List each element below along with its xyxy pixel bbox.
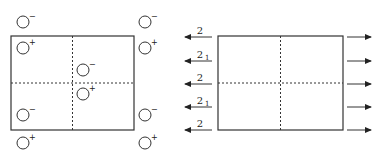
circle-icon bbox=[17, 137, 29, 149]
inflow-arrow: 2 bbox=[185, 72, 212, 84]
diagram-canvas: −−++−+−−++ 2212212 bbox=[0, 0, 381, 164]
arrow-label-subscript: 1 bbox=[205, 54, 209, 62]
circle-icon bbox=[139, 109, 151, 121]
negative-charge: − bbox=[139, 105, 158, 121]
positive-charge: + bbox=[77, 84, 96, 100]
charge-sign: − bbox=[29, 105, 36, 114]
positive-charge: + bbox=[17, 133, 36, 149]
inflow-arrow: 21 bbox=[185, 95, 212, 108]
arrow-label: 2 bbox=[197, 118, 203, 129]
charge-sign: + bbox=[151, 38, 158, 47]
charge-sign: − bbox=[89, 60, 96, 69]
circle-icon bbox=[77, 88, 89, 100]
circle-icon bbox=[139, 137, 151, 149]
charge-sign: − bbox=[151, 105, 158, 114]
circle-icon bbox=[17, 109, 29, 121]
charge-sign: + bbox=[89, 84, 96, 93]
negative-charge: − bbox=[17, 105, 36, 121]
negative-charge: − bbox=[77, 60, 96, 76]
domain-box bbox=[218, 36, 343, 130]
circle-icon bbox=[17, 42, 29, 54]
arrow-label: 2 bbox=[197, 72, 203, 83]
arrow-label-subscript: 1 bbox=[205, 100, 209, 108]
left-panel: −−++−+−−++ bbox=[11, 12, 158, 149]
circle-icon bbox=[17, 16, 29, 28]
inflow-arrow: 2 bbox=[185, 25, 212, 37]
inflow-arrow: 2 bbox=[185, 118, 212, 130]
circle-icon bbox=[139, 42, 151, 54]
negative-charge: − bbox=[17, 12, 36, 28]
charge-sign: − bbox=[29, 12, 36, 21]
arrow-label: 2 bbox=[197, 25, 203, 36]
charge-sign: − bbox=[151, 12, 158, 21]
positive-charge: + bbox=[139, 133, 158, 149]
arrow-label: 2 bbox=[197, 95, 203, 106]
negative-charge: − bbox=[139, 12, 158, 28]
charge-sign: + bbox=[29, 133, 36, 142]
circle-icon bbox=[77, 64, 89, 76]
inflow-arrow: 21 bbox=[185, 49, 212, 62]
right-panel: 2212212 bbox=[185, 25, 371, 130]
circle-icon bbox=[139, 16, 151, 28]
arrow-label: 2 bbox=[197, 49, 203, 60]
positive-charge: + bbox=[17, 38, 36, 54]
charge-sign: + bbox=[29, 38, 36, 47]
charge-sign: + bbox=[151, 133, 158, 142]
positive-charge: + bbox=[139, 38, 158, 54]
